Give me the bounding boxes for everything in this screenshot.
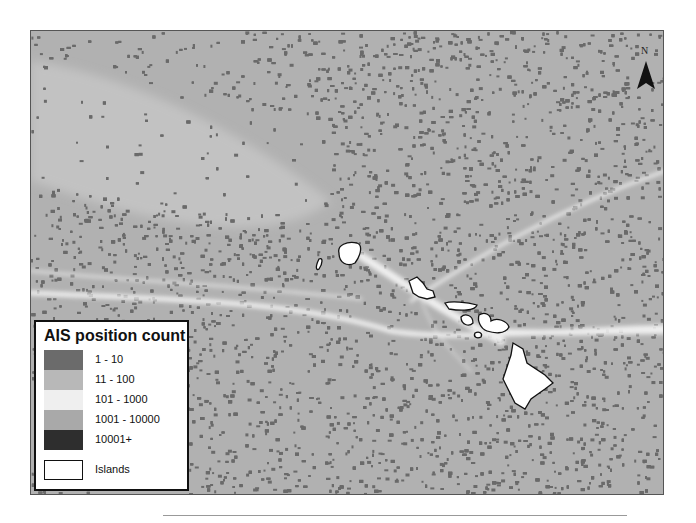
legend: AIS position count 1 - 10 11 - 100 101 -…: [34, 320, 189, 491]
legend-swatch: [44, 390, 83, 410]
legend-label: 11 - 100: [95, 373, 135, 385]
legend-item-1001-10000: 1001 - 10000: [44, 410, 184, 430]
legend-item-10001-plus: 10001+: [44, 430, 184, 450]
legend-item-101-1000: 101 - 1000: [44, 390, 184, 410]
island-lanai: [461, 315, 473, 325]
legend-label: 1 - 10: [95, 353, 123, 365]
legend-swatch: [44, 430, 83, 450]
legend-item-islands: Islands: [44, 460, 184, 480]
map-frame: N AIS position count 1 - 10 11 - 100 101…: [30, 30, 664, 495]
legend-label: 1001 - 10000: [95, 413, 160, 425]
legend-label: Islands: [95, 463, 130, 475]
legend-swatch: [44, 410, 83, 430]
divider-line: [163, 515, 627, 516]
legend-label: 101 - 1000: [95, 393, 148, 405]
island-molokai: [445, 302, 477, 310]
north-arrow-icon: [633, 55, 659, 105]
legend-item-1-10: 1 - 10: [44, 350, 184, 370]
legend-label: 10001+: [95, 433, 132, 445]
legend-title: AIS position count: [44, 327, 185, 345]
legend-swatch-islands: [44, 460, 83, 480]
island-kahoolawe: [474, 332, 481, 338]
legend-item-11-100: 11 - 100: [44, 370, 184, 390]
legend-swatch: [44, 370, 83, 390]
legend-swatch: [44, 350, 83, 370]
north-arrow: N: [633, 45, 659, 95]
